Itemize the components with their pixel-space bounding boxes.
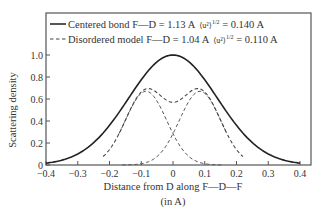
scattering-density-chart: Centered bond F—D = 1.13 A⟨u²⟩1/2 = 0.14… xyxy=(0,0,326,215)
x-tick-label: 0.2 xyxy=(230,168,243,179)
y-axis: 00.20.40.60.81.0 xyxy=(31,50,51,171)
y-tick-label: 0.4 xyxy=(31,116,44,127)
x-tick-label: 0 xyxy=(171,168,176,179)
dashed-component-right-curve xyxy=(122,91,227,165)
y-tick-label: 0.8 xyxy=(31,72,44,83)
legend: Centered bond F—D = 1.13 A⟨u²⟩1/2 = 0.14… xyxy=(50,19,278,45)
x-axis: −0.4−0.3−0.2−0.100.10.20.30.4 xyxy=(37,161,306,179)
legend-dashed-text: Disordered model F—D = 1.04 A⟨u²⟩1/2 = 0… xyxy=(68,34,278,45)
x-axis-unit: (in A) xyxy=(161,196,186,208)
x-tick-label: −0.2 xyxy=(100,168,118,179)
y-axis-title: Scattering density xyxy=(7,71,18,147)
y-tick-label: 0.2 xyxy=(31,138,44,149)
x-tick-label: 0.3 xyxy=(262,168,275,179)
x-tick-label: −0.4 xyxy=(37,168,55,179)
x-axis-title: Distance from D along F—D—F xyxy=(104,181,243,192)
centered-bond-curve xyxy=(46,55,300,163)
y-tick-label: 1.0 xyxy=(31,50,44,61)
y-tick-label: 0.6 xyxy=(31,94,44,105)
x-tick-label: −0.1 xyxy=(132,168,150,179)
x-tick-label: −0.3 xyxy=(69,168,87,179)
x-tick-label: 0.1 xyxy=(199,168,212,179)
legend-solid-text: Centered bond F—D = 1.13 A⟨u²⟩1/2 = 0.14… xyxy=(68,19,264,30)
x-tick-label: 0.4 xyxy=(294,168,307,179)
curves xyxy=(46,55,300,165)
